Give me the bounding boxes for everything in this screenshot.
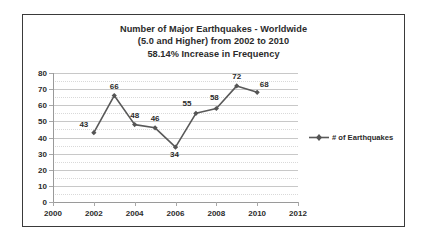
y-axis-tick-label: 20 (38, 165, 47, 174)
y-axis-tick-label: 70 (38, 85, 47, 94)
x-axis-tick (94, 202, 95, 206)
data-point-label: 48 (130, 111, 139, 120)
data-point-label: 46 (151, 114, 160, 123)
series-polyline (94, 86, 257, 147)
x-axis-tick-label: 2010 (248, 209, 266, 218)
data-point-label: 58 (210, 93, 219, 102)
data-point-label: 55 (182, 99, 191, 108)
diamond-marker-icon (309, 133, 329, 142)
y-axis-tick-label: 30 (38, 149, 47, 158)
chart-frame: Number of Major Earthquakes - Worldwide … (22, 14, 405, 227)
x-axis-tick-label: 2012 (289, 209, 307, 218)
x-axis-tick (216, 202, 217, 206)
y-axis-tick-label: 80 (38, 69, 47, 78)
legend-label-earthquakes: # of Earthquakes (332, 133, 393, 142)
y-axis-tick-label: 10 (38, 181, 47, 190)
data-point-label: 43 (79, 120, 88, 129)
y-axis-tick-label: 0 (43, 198, 47, 207)
x-axis-tick (135, 202, 136, 206)
chart-subtitle-secondary: 58.14% Increase in Frequency (23, 48, 404, 60)
x-axis-tick (257, 202, 258, 206)
chart-title-block: Number of Major Earthquakes - Worldwide … (23, 23, 404, 60)
x-axis-tick (176, 202, 177, 206)
chart-legend: # of Earthquakes (309, 133, 393, 142)
data-point-marker (255, 90, 260, 95)
data-point-label: 72 (232, 72, 241, 81)
page-title: Number of Major Earthquakes - Worldwide (23, 23, 404, 35)
data-point-label: 66 (110, 82, 119, 91)
x-axis-tick (53, 202, 54, 206)
series-line-earthquakes (53, 73, 298, 202)
x-axis-tick (298, 202, 299, 206)
x-axis-tick-label: 2002 (85, 209, 103, 218)
x-axis-tick-label: 2006 (167, 209, 185, 218)
data-point-label: 34 (170, 150, 179, 159)
x-axis-tick-label: 2008 (207, 209, 225, 218)
y-axis-tick-label: 50 (38, 117, 47, 126)
x-axis-tick-label: 2004 (126, 209, 144, 218)
plot-area: 01020304050607080 2000200220042006200820… (53, 73, 298, 202)
data-point-label: 68 (260, 80, 269, 89)
x-axis-tick-label: 2000 (44, 209, 62, 218)
plot-wrapper: 01020304050607080 2000200220042006200820… (53, 73, 298, 202)
y-axis-tick-label: 40 (38, 133, 47, 142)
chart-subtitle: (5.0 and Higher) from 2002 to 2010 (23, 35, 404, 47)
chart-screenshot: Number of Major Earthquakes - Worldwide … (0, 0, 426, 240)
y-axis-tick-label: 60 (38, 101, 47, 110)
